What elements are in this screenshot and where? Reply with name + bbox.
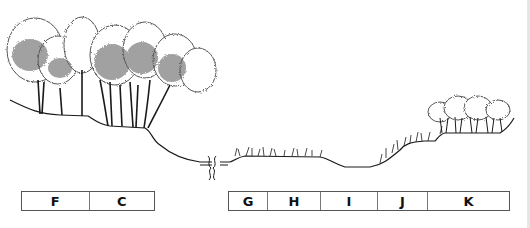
zone-g: G — [229, 192, 267, 210]
break-symbol — [208, 156, 216, 180]
zone-labels-left: F C — [21, 191, 155, 211]
zone-f: F — [22, 192, 89, 210]
zone-k: K — [427, 192, 509, 210]
grassland-vegetation — [235, 126, 442, 163]
zone-labels-right: G H I J K — [228, 191, 510, 211]
zone-h: H — [267, 192, 320, 210]
ground-profile-right — [220, 118, 514, 167]
zone-j: J — [377, 192, 427, 210]
zone-i: I — [320, 192, 377, 210]
zone-c: C — [89, 192, 155, 210]
